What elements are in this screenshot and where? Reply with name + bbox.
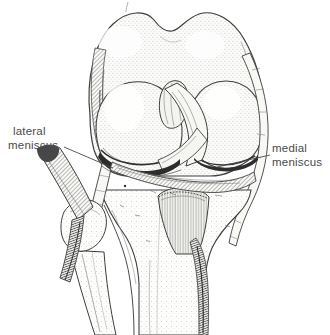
cut-tendon-band [37, 145, 93, 220]
label-medial-meniscus: medial meniscus [272, 141, 322, 169]
knee-illustration-figure: lateral meniscus medial meniscus [0, 0, 330, 335]
stray-ink-mark [126, 2, 128, 12]
label-medial-meniscus-line2: meniscus [272, 155, 322, 169]
label-lateral-meniscus-line2: meniscus [8, 138, 58, 152]
label-lateral-meniscus-line1: lateral [8, 124, 58, 138]
label-lateral-meniscus: lateral meniscus [8, 124, 58, 152]
label-medial-meniscus-line1: medial [272, 141, 322, 155]
